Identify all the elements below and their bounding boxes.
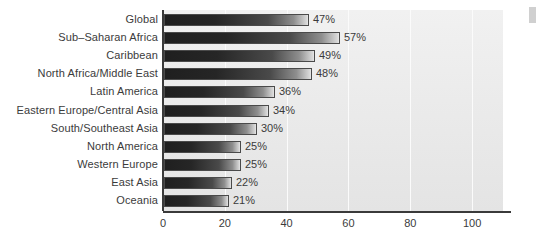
bar <box>164 123 257 135</box>
bar-fill <box>164 123 257 135</box>
bar <box>164 50 315 62</box>
bar-value-label: 30% <box>261 122 283 135</box>
scrollbar-artifact[interactable] <box>529 7 536 23</box>
bar <box>164 177 232 189</box>
bar-row: North America25% <box>0 138 542 156</box>
bar-value-label: 34% <box>273 104 295 117</box>
bar-category-label: East Asia <box>0 176 158 189</box>
bar-row: North Africa/Middle East48% <box>0 65 542 83</box>
bar-row: South/Southeast Asia30% <box>0 120 542 138</box>
bar-category-label: Western Europe <box>0 158 158 171</box>
bar-row: Global47% <box>0 11 542 29</box>
bar-fill <box>164 32 340 44</box>
bar <box>164 32 340 44</box>
x-tick-label: 40 <box>267 216 307 230</box>
x-tick-label: 60 <box>328 216 368 230</box>
bar-row: Western Europe25% <box>0 156 542 174</box>
bar <box>164 86 275 98</box>
bar <box>164 141 241 153</box>
bar-value-label: 22% <box>236 176 258 189</box>
x-axis-line <box>163 211 511 213</box>
bar-fill <box>164 86 275 98</box>
x-tick-label: 80 <box>390 216 430 230</box>
bar-row: Sub–Saharan Africa57% <box>0 29 542 47</box>
bar-category-label: Oceania <box>0 194 158 207</box>
bar-fill <box>164 195 229 207</box>
bar-value-label: 49% <box>319 49 341 62</box>
bar-value-label: 21% <box>233 194 255 207</box>
bar-row: Latin America36% <box>0 83 542 101</box>
bar-value-label: 25% <box>245 140 267 153</box>
bar-category-label: Eastern Europe/Central Asia <box>0 104 158 117</box>
bar-row: East Asia22% <box>0 174 542 192</box>
bar-category-label: Caribbean <box>0 49 158 62</box>
bar-row: Oceania21% <box>0 192 542 210</box>
bar-category-label: Sub–Saharan Africa <box>0 31 158 44</box>
bar-fill <box>164 50 315 62</box>
bar-category-label: North America <box>0 140 158 153</box>
bar-row: Eastern Europe/Central Asia34% <box>0 102 542 120</box>
x-tick-label: 0 <box>143 216 183 230</box>
bar-category-label: Global <box>0 13 158 26</box>
bar-row: Caribbean49% <box>0 47 542 65</box>
bar-fill <box>164 141 241 153</box>
bar-fill <box>164 105 269 117</box>
bar-fill <box>164 68 312 80</box>
bar-fill <box>164 177 232 189</box>
bar-value-label: 47% <box>313 13 335 26</box>
x-tick-label: 100 <box>452 216 492 230</box>
bar-category-label: North Africa/Middle East <box>0 67 158 80</box>
bar-chart: Global47%Sub–Saharan Africa57%Caribbean4… <box>0 0 542 245</box>
bar <box>164 195 229 207</box>
bar-fill <box>164 159 241 171</box>
bar-value-label: 25% <box>245 158 267 171</box>
bar-value-label: 48% <box>316 67 338 80</box>
x-tick-label: 20 <box>205 216 245 230</box>
bar <box>164 159 241 171</box>
bar <box>164 68 312 80</box>
bar <box>164 105 269 117</box>
bar-fill <box>164 14 309 26</box>
bar-category-label: South/Southeast Asia <box>0 122 158 135</box>
bar-value-label: 36% <box>279 85 301 98</box>
bar-value-label: 57% <box>344 31 366 44</box>
bar-category-label: Latin America <box>0 85 158 98</box>
bar <box>164 14 309 26</box>
